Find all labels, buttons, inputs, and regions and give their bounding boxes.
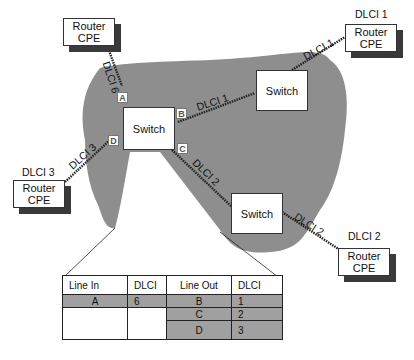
router-dlci-label: DLCI 3 [22, 166, 55, 178]
dlci-mapping-table: Line In DLCI Line Out DLCI A 6 B 1 C 2 D… [62, 275, 283, 340]
router-label-line1: Router [72, 20, 105, 32]
table-row: C 2 [63, 308, 283, 321]
switch-label: Switch [241, 208, 273, 220]
router-label-line2: CPE [360, 38, 383, 50]
router-cpe-top-left: Router CPE [63, 18, 115, 46]
router-label-line2: CPE [353, 262, 376, 274]
port-d: D [108, 135, 119, 146]
cell-empty [63, 308, 128, 340]
port-a: A [117, 92, 128, 103]
switch-label: Switch [133, 123, 165, 135]
switch-bottom-right: Switch [231, 193, 283, 234]
router-label-line2: CPE [78, 32, 101, 44]
switch-center: Switch [123, 107, 175, 150]
cell-line-out: D [167, 321, 232, 340]
port-b: B [176, 108, 187, 119]
router-label-line2: CPE [28, 194, 51, 206]
port-c: C [177, 143, 188, 154]
header-line-in: Line In [63, 276, 128, 295]
cell-line-out: C [167, 308, 232, 321]
cell-line-out: B [167, 295, 232, 308]
header-line-out: Line Out [167, 276, 232, 295]
router-cpe-left: Router CPE [13, 180, 65, 208]
table-row: A 6 B 1 [63, 295, 283, 308]
router-dlci-label: DLCI 1 [355, 8, 388, 20]
header-dlci-out: DLCI [232, 276, 283, 295]
router-cpe-bottom-right: Router CPE [338, 248, 390, 276]
cell-line-in: A [63, 295, 128, 308]
cell-dlci-out: 3 [232, 321, 283, 340]
cell-empty [128, 308, 167, 340]
cell-dlci-out: 2 [232, 308, 283, 321]
router-dlci-label: DLCI 2 [348, 230, 381, 242]
header-dlci-in: DLCI [128, 276, 167, 295]
router-label-line1: Router [354, 26, 387, 38]
router-label-line1: Router [22, 182, 55, 194]
switch-label: Switch [266, 85, 298, 97]
switch-top-right: Switch [256, 70, 308, 111]
cell-dlci-in: 6 [128, 295, 167, 308]
router-cpe-top-right: Router CPE [345, 24, 397, 52]
cell-dlci-out: 1 [232, 295, 283, 308]
router-label-line1: Router [347, 250, 380, 262]
table-header-row: Line In DLCI Line Out DLCI [63, 276, 283, 295]
